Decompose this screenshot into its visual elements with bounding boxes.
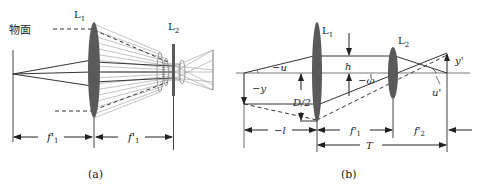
dim-t-label: T: [366, 140, 374, 151]
image-height-label: y': [454, 55, 463, 66]
image-angle-label: u': [432, 87, 441, 98]
lens-l1: [312, 22, 322, 122]
chief-ray-out: [320, 53, 447, 104]
lens2-label: L2: [398, 35, 409, 49]
figure-b: L1 L2 −u −y D/2 h −ω y' u' −l f'1 f'2 T …: [236, 22, 472, 181]
lens-l2: [172, 44, 175, 96]
caption-a: (a): [88, 168, 103, 181]
object-plane-label: 物面: [9, 23, 31, 37]
dim-left-label: f'1: [46, 131, 59, 145]
dashed-ray-out: [317, 55, 447, 120]
angle-u-arc: [257, 70, 258, 73]
dim-right-label: f'1: [127, 131, 140, 145]
ray-fan-dark: [94, 30, 172, 110]
aperture-half-label: D/2: [292, 97, 311, 108]
lens1-label: L1: [74, 9, 85, 23]
optics-diagram: 物面 L1 L2 f'1 f'1 (a): [0, 0, 477, 187]
dim-f1-label: f'1: [349, 125, 361, 138]
output-fan: [175, 50, 213, 90]
figure-a: 物面 L1 L2 f'1 f'1 (a): [9, 9, 213, 181]
field-angle-label: −ω: [358, 75, 375, 86]
ray-fan: [94, 24, 172, 118]
dim-l-label: −l: [274, 125, 286, 136]
dim-f2-label: f'2: [413, 125, 425, 138]
ray-height-label: h: [345, 61, 351, 72]
lens1-label: L1: [322, 25, 333, 39]
uprime-leader: [436, 76, 440, 84]
object-rays: [13, 60, 92, 86]
lens2-label: L2: [168, 21, 179, 35]
lens-l2: [388, 47, 398, 99]
object-height-label: −y: [252, 83, 266, 94]
lens-l1: [88, 22, 100, 118]
angle-u-label: −u: [272, 62, 287, 73]
caption-b: (b): [341, 168, 357, 181]
